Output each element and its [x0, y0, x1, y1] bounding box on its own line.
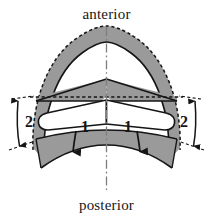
right-measure-arrow — [194, 101, 196, 146]
right-measure-bottom-tick — [181, 142, 204, 150]
label-height-right: 2 — [180, 113, 188, 130]
diagram-canvas: 2 2 1 1 anterior posterior — [0, 0, 213, 219]
label-anterior: anterior — [82, 6, 130, 22]
left-measure-arrow — [17, 101, 19, 146]
label-height-left: 2 — [25, 113, 33, 130]
label-leaflet-left: 1 — [81, 118, 89, 135]
label-leaflet-right: 1 — [124, 118, 132, 135]
left-measure-bottom-tick — [9, 142, 32, 150]
label-posterior: posterior — [79, 197, 134, 213]
valve-annulus-figure: 2 2 1 1 anterior posterior — [0, 0, 213, 219]
